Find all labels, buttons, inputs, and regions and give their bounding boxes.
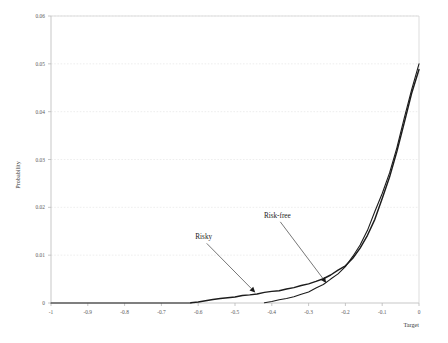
chart-canvas: 00.010.020.030.040.050.06-1-0.9-0.8-0.7-… bbox=[0, 0, 448, 343]
x-tick-label: -0.8 bbox=[120, 309, 129, 315]
tick-labels-group: 00.010.020.030.040.050.06-1-0.9-0.8-0.7-… bbox=[36, 13, 421, 315]
y-tick-label: 0.06 bbox=[36, 13, 46, 19]
annotation-leader-line bbox=[280, 222, 323, 279]
annotation-label: Risk-free bbox=[264, 212, 291, 220]
y-tick-label: 0 bbox=[42, 300, 45, 306]
x-tick-label: -0.9 bbox=[84, 309, 93, 315]
probability-target-chart: 00.010.020.030.040.050.06-1-0.9-0.8-0.7-… bbox=[0, 0, 448, 343]
gridlines-group bbox=[51, 16, 419, 255]
y-tick-label: 0.01 bbox=[36, 252, 46, 258]
x-tick-label: -0.5 bbox=[231, 309, 240, 315]
annotation-label: Risky bbox=[195, 233, 212, 241]
y-tick-label: 0.03 bbox=[36, 157, 46, 163]
x-tick-label: -1 bbox=[49, 309, 54, 315]
y-tick-label: 0.02 bbox=[36, 204, 46, 210]
series-line-risk-free bbox=[264, 64, 419, 303]
x-tick-label: -0.1 bbox=[378, 309, 387, 315]
y-tick-label: 0.05 bbox=[36, 61, 46, 67]
x-tick-label: -0.3 bbox=[304, 309, 313, 315]
x-tick-label: -0.4 bbox=[268, 309, 277, 315]
y-tick-label: 0.04 bbox=[36, 109, 46, 115]
series-group bbox=[51, 64, 419, 303]
x-tick-label: -0.7 bbox=[157, 309, 166, 315]
annotations-group: RiskyRisk-free bbox=[195, 212, 326, 293]
x-tick-label: -0.2 bbox=[341, 309, 350, 315]
x-tick-label: 0 bbox=[418, 309, 421, 315]
x-axis-title: Target bbox=[403, 321, 419, 328]
x-tick-label: -0.6 bbox=[194, 309, 203, 315]
annotation-leader-line bbox=[207, 243, 252, 288]
y-axis-title: Probability bbox=[14, 160, 21, 188]
